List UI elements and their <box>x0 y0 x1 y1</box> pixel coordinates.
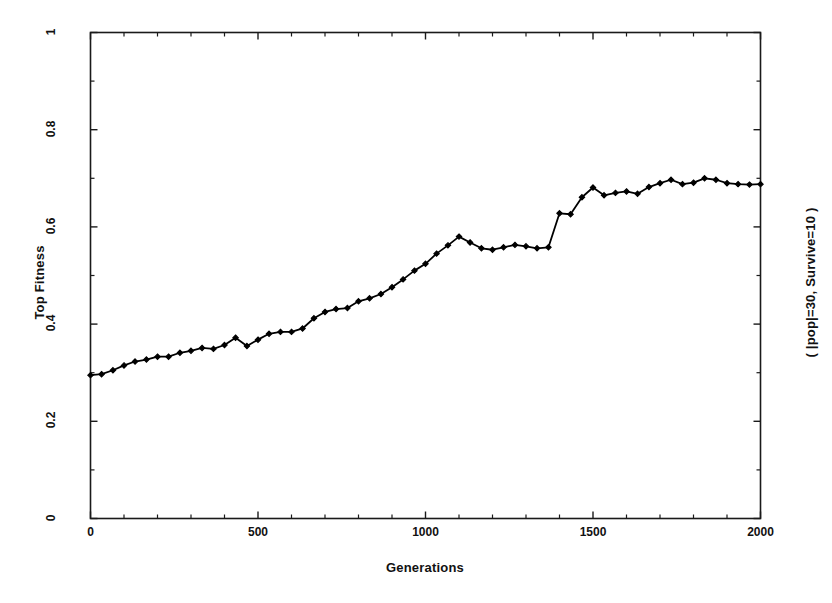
data-point-marker <box>735 181 740 186</box>
data-point-marker <box>99 371 104 376</box>
data-point-marker <box>702 176 707 181</box>
data-point-marker <box>155 354 160 359</box>
data-point-marker <box>132 359 137 364</box>
data-point-marker <box>177 350 182 355</box>
data-point-marker <box>624 189 629 194</box>
y-tick-label: 0.6 <box>44 206 58 246</box>
data-point-marker <box>713 177 718 182</box>
x-tick-label: 1500 <box>563 525 623 539</box>
data-point-marker <box>657 180 662 185</box>
data-point-marker <box>680 181 685 186</box>
data-point-marker <box>557 211 562 216</box>
y-tick-label: 0 <box>44 498 58 538</box>
data-point-marker <box>668 177 673 182</box>
data-point-marker <box>490 247 495 252</box>
top-fitness-line-chart <box>0 0 832 603</box>
y-tick-label: 0.8 <box>44 109 58 149</box>
data-point-marker <box>501 245 506 250</box>
right-annotation-label: ( |pop|=30, Survive=10 ) <box>803 178 818 388</box>
data-point-marker <box>758 181 763 186</box>
series-line-0 <box>91 178 761 375</box>
data-point-marker <box>110 368 115 373</box>
y-tick-label: 0.4 <box>44 303 58 343</box>
data-point-marker <box>278 329 283 334</box>
data-point-marker <box>188 348 193 353</box>
x-tick-label: 2000 <box>731 525 791 539</box>
y-tick-label: 1 <box>44 12 58 52</box>
x-tick-label: 500 <box>228 525 288 539</box>
data-point-marker <box>691 180 696 185</box>
data-point-marker <box>546 245 551 250</box>
y-tick-label: 0.2 <box>44 400 58 440</box>
x-tick-label: 1000 <box>396 525 456 539</box>
data-point-marker <box>534 246 539 251</box>
plot-frame <box>91 33 761 519</box>
data-point-marker <box>747 182 752 187</box>
data-point-marker <box>289 329 294 334</box>
data-point-marker <box>211 346 216 351</box>
x-tick-label: 0 <box>61 525 121 539</box>
data-point-marker <box>367 296 372 301</box>
data-point-marker <box>144 357 149 362</box>
x-axis-title: Generations <box>335 560 515 575</box>
data-point-marker <box>121 363 126 368</box>
data-point-marker <box>199 345 204 350</box>
data-point-marker <box>512 242 517 247</box>
data-series-group <box>88 176 763 378</box>
chart-figure: Top Fitness Generations ( |pop|=30, Surv… <box>0 0 832 603</box>
data-point-marker <box>724 180 729 185</box>
data-point-marker <box>333 306 338 311</box>
axis-ticks <box>91 33 761 519</box>
data-point-marker <box>613 190 618 195</box>
data-point-marker <box>166 354 171 359</box>
data-point-marker <box>523 244 528 249</box>
